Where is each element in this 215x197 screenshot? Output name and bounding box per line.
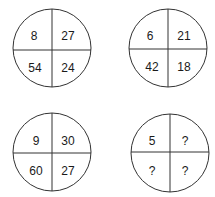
- number-circle-puzzle: 8 27 54 24 6 21 42 18 9 30 60 27 5 ? ? ?: [0, 0, 215, 197]
- cell-top-right: 30: [61, 134, 75, 148]
- cell-bottom-right: 18: [177, 60, 191, 74]
- cell-bottom-left: 42: [145, 60, 159, 74]
- cell-top-left: 9: [33, 134, 40, 148]
- cell-top-right: 27: [61, 29, 75, 43]
- cell-bottom-right: 27: [61, 164, 75, 178]
- cell-bottom-right: 24: [61, 61, 75, 75]
- cell-bottom-right: ?: [182, 164, 189, 178]
- cell-top-left: 8: [31, 29, 38, 43]
- circle-bottom-right: 5 ? ? ?: [131, 114, 209, 192]
- cell-top-right: 21: [177, 29, 191, 43]
- cell-bottom-left: 54: [28, 61, 42, 75]
- cell-top-right: ?: [182, 134, 189, 148]
- cell-top-left: 6: [147, 29, 154, 43]
- cell-top-left: 5: [149, 134, 156, 148]
- circle-top-right: 6 21 42 18: [129, 9, 207, 87]
- circle-bottom-left: 9 30 60 27: [13, 113, 91, 191]
- cell-bottom-left: 60: [29, 164, 43, 178]
- circle-top-left: 8 27 54 24: [13, 9, 91, 87]
- cell-bottom-left: ?: [149, 164, 156, 178]
